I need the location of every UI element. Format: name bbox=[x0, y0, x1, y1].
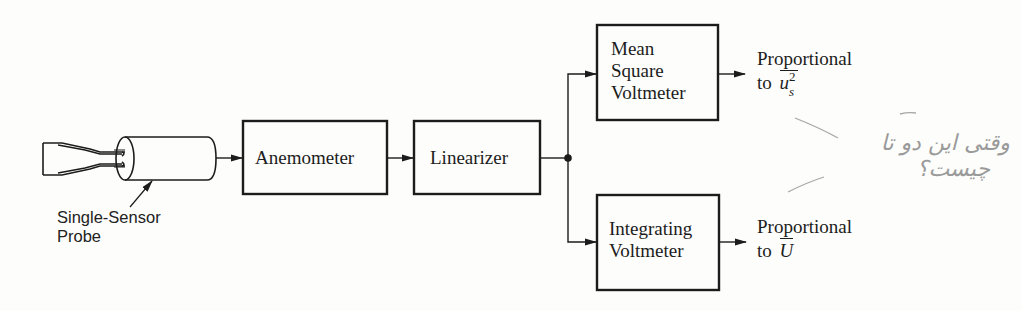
linearizer-label: Linearizer bbox=[430, 147, 508, 169]
integrating-line2: Voltmeter bbox=[609, 240, 692, 262]
diagram-canvas bbox=[0, 0, 1022, 311]
output-bottom-line2: to U bbox=[757, 238, 852, 262]
symbol-u: u bbox=[780, 72, 790, 93]
mean-square-line3: Voltmeter bbox=[611, 82, 686, 104]
probe-icon bbox=[43, 137, 216, 180]
output-bottom-line1: Proportional bbox=[757, 216, 852, 238]
edge-junction-mean-square bbox=[568, 74, 596, 158]
mean-square-symbol: u2s bbox=[780, 70, 799, 94]
output-top-prefix: to bbox=[757, 72, 772, 93]
mean-square-label: Mean Square Voltmeter bbox=[611, 38, 686, 104]
output-top-label: Proportional to u2s bbox=[757, 48, 852, 94]
probe-pointer bbox=[130, 181, 152, 207]
output-top-line2: to u2s bbox=[757, 70, 852, 94]
integrating-line1: Integrating bbox=[609, 218, 692, 240]
integrating-label: Integrating Voltmeter bbox=[609, 218, 692, 262]
mean-square-line1: Mean bbox=[611, 38, 686, 60]
handwritten-line2: چیست؟ bbox=[880, 156, 990, 182]
mean-velocity-symbol: U bbox=[780, 238, 794, 262]
output-bottom-prefix: to bbox=[757, 240, 772, 261]
probe-label-line2: Probe bbox=[57, 227, 161, 246]
mean-square-line2: Square bbox=[611, 60, 686, 82]
probe-label-line1: Single-Sensor bbox=[57, 208, 161, 227]
probe-label: Single-Sensor Probe bbox=[57, 208, 161, 246]
edge-junction-integrating bbox=[568, 158, 596, 242]
handwritten-line1: وقتی این دو تا bbox=[880, 130, 1010, 156]
handwritten-note: وقتی این دو تا چیست؟ bbox=[880, 130, 1010, 182]
output-bottom-label: Proportional to U bbox=[757, 216, 852, 262]
subscript-s: s bbox=[789, 81, 794, 103]
output-top-line1: Proportional bbox=[757, 48, 852, 70]
anemometer-label: Anemometer bbox=[255, 147, 354, 169]
